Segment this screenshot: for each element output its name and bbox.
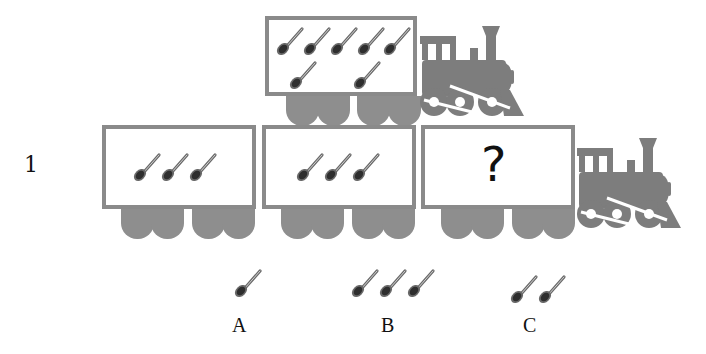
spoon-icon xyxy=(378,268,408,298)
answer-options: A B C xyxy=(0,250,706,354)
spoon-icon xyxy=(323,152,353,182)
wheel xyxy=(352,209,385,239)
bottom-train: ? xyxy=(0,120,706,240)
spoon-icon xyxy=(233,268,263,298)
option-a-label: A xyxy=(232,314,246,337)
option-c-label: C xyxy=(523,314,536,337)
spoon-icon xyxy=(537,274,567,304)
spoon-icon xyxy=(275,26,305,56)
spoon-icon xyxy=(350,268,380,298)
option-c[interactable]: C xyxy=(505,260,575,350)
spoon-icon xyxy=(352,60,382,90)
wheel xyxy=(512,209,545,239)
spoon-icon xyxy=(188,152,218,182)
spoon-icon xyxy=(288,60,318,90)
option-b[interactable]: B xyxy=(345,260,445,350)
spoon-icon xyxy=(160,152,190,182)
wheel xyxy=(311,209,344,239)
spoon-icon xyxy=(509,274,539,304)
spoon-icon xyxy=(302,26,332,56)
wheel xyxy=(151,209,184,239)
spoon-icon xyxy=(329,26,359,56)
wheel xyxy=(471,209,504,239)
wheel xyxy=(121,209,154,239)
wheel xyxy=(382,209,415,239)
spoon-icon xyxy=(406,268,436,298)
spoon-icon xyxy=(382,26,412,56)
locomotive-icon xyxy=(420,22,526,122)
wheel xyxy=(192,209,225,239)
locomotive-icon xyxy=(577,134,683,234)
top-train xyxy=(0,0,706,130)
wheel xyxy=(281,209,314,239)
wheel xyxy=(222,209,255,239)
spoon-icon xyxy=(351,152,381,182)
wheel xyxy=(441,209,474,239)
option-a[interactable]: A xyxy=(225,260,265,350)
question-mark: ? xyxy=(481,136,506,192)
spoon-icon xyxy=(132,152,162,182)
spoon-icon xyxy=(295,152,325,182)
wheel xyxy=(542,209,575,239)
option-b-label: B xyxy=(381,314,394,337)
